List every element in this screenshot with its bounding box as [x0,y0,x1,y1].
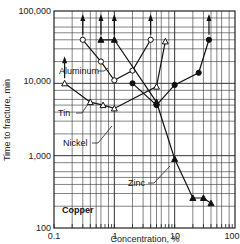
x-tick-0.1: 0.1 [48,231,61,241]
label-tin: Tin [58,108,70,118]
data-point [98,59,103,64]
chart: 100,000 10,000 1,000 100 0.1 1 10 100 Co… [0,0,240,244]
y-tick-10000: 10,000 [23,76,51,86]
x-tick-100: 100 [224,231,239,241]
label-nickel: Nickel [63,138,88,148]
data-point [154,84,160,90]
data-point [112,78,117,83]
data-point [130,81,135,86]
label-zinc: Zinc [128,178,146,188]
data-point [172,156,178,162]
y-tick-1000: 1,000 [28,151,51,161]
y-axis-title: Time to fracture, min [2,79,12,161]
label-copper: Copper [62,205,94,215]
data-point [148,37,153,42]
x-axis-title: Concentration, % [110,234,179,244]
y-tick-100000: 100,000 [18,6,51,16]
label-aluminum: Aluminum [59,66,99,76]
data-point [172,82,177,87]
data-point [80,37,85,42]
data-point [162,38,168,44]
data-point [196,70,201,75]
data-point [206,37,211,42]
